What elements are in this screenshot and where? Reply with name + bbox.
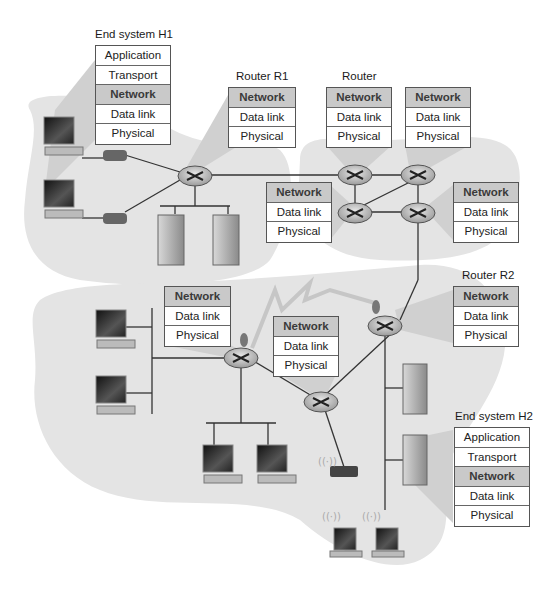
layer-network: Network <box>165 287 230 307</box>
layer-data-link: Data link <box>406 108 470 128</box>
layer-network: Network <box>96 85 170 105</box>
layer-physical: Physical <box>455 506 529 526</box>
layer-application: Application <box>455 428 529 448</box>
layer-data-link: Data link <box>455 487 529 507</box>
layer-physical: Physical <box>454 222 518 242</box>
layer-physical: Physical <box>327 127 391 147</box>
server-tower-icon <box>403 364 427 414</box>
layer-data-link: Data link <box>274 337 338 357</box>
layer-data-link: Data link <box>454 203 518 223</box>
router-icon <box>401 165 435 185</box>
svg-text:((·)): ((·)) <box>362 511 381 522</box>
router-title: Router <box>342 70 377 82</box>
satellite-dish-icon <box>372 300 380 314</box>
layer-data-link: Data link <box>165 307 230 327</box>
layer-application: Application <box>96 46 170 66</box>
end-system-h2-title: End system H2 <box>455 410 533 422</box>
layer-data-link: Data link <box>327 108 391 128</box>
router-top-right-protocol-stack: Network Data link Physical <box>405 87 471 148</box>
layer-network: Network <box>455 467 529 487</box>
layer-network: Network <box>454 183 518 203</box>
router-r2-protocol-stack: Network Data link Physical <box>453 286 519 347</box>
layer-network: Network <box>267 183 331 203</box>
router-r2-title: Router R2 <box>462 269 514 281</box>
layer-physical: Physical <box>406 127 470 147</box>
server-tower-icon <box>213 215 239 265</box>
layer-physical: Physical <box>96 124 170 144</box>
layer-transport: Transport <box>455 448 529 468</box>
layer-physical: Physical <box>274 356 338 376</box>
router-r1-title: Router R1 <box>236 70 288 82</box>
layer-network: Network <box>454 287 518 307</box>
router-icon <box>338 165 372 185</box>
router-icon <box>401 203 435 223</box>
router-top-protocol-stack: Network Data link Physical <box>326 87 392 148</box>
layer-data-link: Data link <box>267 203 331 223</box>
svg-text:((·)): ((·)) <box>322 511 341 522</box>
end-system-h2-protocol-stack: Application Transport Network Data link … <box>454 427 530 527</box>
layer-network: Network <box>274 317 338 337</box>
end-system-h1-protocol-stack: Application Transport Network Data link … <box>95 45 171 145</box>
layer-physical: Physical <box>229 127 295 147</box>
router-lower-left-protocol-stack: Network Data link Physical <box>164 286 231 347</box>
server-tower-icon <box>403 435 427 485</box>
wireless-access-point-icon <box>330 466 358 477</box>
layer-network: Network <box>229 88 295 108</box>
router-mid-right-protocol-stack: Network Data link Physical <box>453 182 519 243</box>
layer-physical: Physical <box>165 326 230 346</box>
router-mid-left-protocol-stack: Network Data link Physical <box>266 182 332 243</box>
router-icon <box>368 316 402 336</box>
router-icon <box>304 392 338 412</box>
modem-icon <box>103 213 127 224</box>
layer-transport: Transport <box>96 66 170 86</box>
layer-physical: Physical <box>267 222 331 242</box>
router-lower-center-protocol-stack: Network Data link Physical <box>273 316 339 377</box>
router-icon <box>338 203 372 223</box>
layer-physical: Physical <box>454 326 518 346</box>
server-tower-icon <box>158 215 184 265</box>
satellite-dish-icon <box>240 333 248 347</box>
svg-text:((·)): ((·)) <box>318 456 337 467</box>
layer-network: Network <box>327 88 391 108</box>
layer-data-link: Data link <box>96 105 170 125</box>
modem-icon <box>103 150 127 161</box>
layer-network: Network <box>406 88 470 108</box>
layer-data-link: Data link <box>454 307 518 327</box>
router-r1-protocol-stack: Network Data link Physical <box>228 87 296 148</box>
router-icon <box>178 166 212 186</box>
layer-data-link: Data link <box>229 108 295 128</box>
end-system-h1-title: End system H1 <box>95 28 173 40</box>
router-icon <box>224 348 258 368</box>
